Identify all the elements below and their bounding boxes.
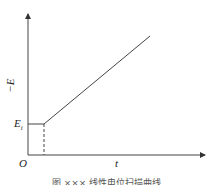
x-axis-label: t — [115, 158, 118, 169]
ei-subscript: i — [21, 124, 23, 132]
figure-caption: 图 ××× 线性电位扫描曲线 — [0, 176, 213, 185]
ei-main: E — [14, 117, 21, 129]
ei-label: Ei — [14, 118, 23, 132]
sweep-line — [44, 36, 150, 124]
y-axis-label: −E — [5, 78, 16, 92]
diagram-canvas — [0, 0, 213, 185]
origin-label: O — [19, 158, 27, 169]
